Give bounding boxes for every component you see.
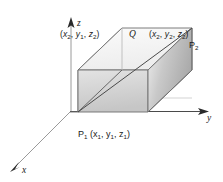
z-axis-label: z (77, 19, 81, 29)
point-q-label: (x2, y1, z2) (60, 30, 99, 39)
point-p2-coord-label: (x2, y2, z2) (149, 30, 188, 39)
x-axis-label: x (22, 166, 26, 176)
y-axis-label: y (207, 114, 211, 124)
p1-marker-sub: 1 (84, 133, 87, 140)
figure-container: z y x (x2, y1, z2) Q (x2, y2, z2) P2 P1 … (0, 0, 223, 182)
box-group (70, 28, 192, 112)
p2-z-sub: 2 (182, 33, 186, 40)
p1-z-sub: 1 (123, 133, 126, 140)
q-z-sub: 2 (93, 33, 97, 40)
p1-y-sub: 1 (110, 133, 113, 140)
p2-x-sub: 2 (156, 33, 160, 40)
q-y-sub: 1 (80, 33, 84, 40)
p1-coord-close: ) (127, 129, 130, 139)
point-p1-label: P1 (x1, y1, z1) (78, 130, 130, 139)
x-axis-line (16, 112, 70, 166)
p2-y-sub: 2 (169, 33, 173, 40)
q-x-sub: 2 (67, 33, 71, 40)
point-p2-marker: P2 (189, 41, 198, 50)
coordinate-diagram (0, 0, 223, 182)
box-face-front (78, 70, 148, 112)
point-q-marker: Q (129, 30, 136, 40)
p1-x-sub: 1 (97, 133, 100, 140)
p2-marker-sub: 2 (195, 44, 198, 51)
